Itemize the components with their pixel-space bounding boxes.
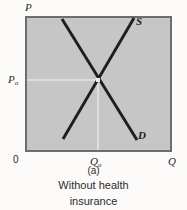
demand-curve-label: D [138,130,146,141]
y-axis-label: P [25,2,32,13]
price-tick-subscript: o [15,79,19,87]
figure-root: P Po 0 Qo Q S D (a) Without health insur… [0,0,187,210]
panel-identifier: (a) [0,164,187,177]
plot-area [25,16,172,152]
caption-line-1: Without health [0,177,187,193]
caption-line-2: insurance [0,193,187,209]
price-tick-letter: P [8,73,15,85]
price-equilibrium-tick-label: Po [8,74,18,85]
figure-caption: (a) Without health insurance [0,164,187,209]
supply-curve-label: S [136,16,142,27]
